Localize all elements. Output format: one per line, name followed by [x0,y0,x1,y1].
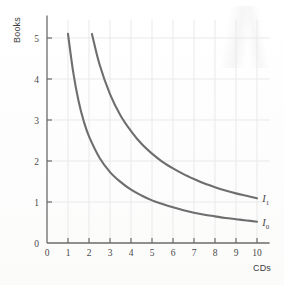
x-axis-title: CDs [253,263,271,273]
figure-canvas: 012345678910 012345 I0I1 CDs Books [0,0,284,285]
y-axis-tick-label: 1 [34,198,39,208]
curve-I1 [92,34,257,198]
x-axis-tick-label: 2 [87,248,92,258]
curve-I0 [68,34,257,222]
x-axis-tick-label: 0 [45,248,50,258]
y-axis-tick-label: 0 [34,239,39,249]
curve-label-I0: I0 [261,217,270,231]
x-axis-tick-label: 8 [213,248,218,258]
y-axis-ticks [47,38,52,202]
curve-label-I1: I1 [261,193,270,207]
y-axis-tick-labels: 012345 [34,34,39,249]
x-axis-tick-label: 6 [171,248,176,258]
y-axis-tick-label: 3 [34,116,39,126]
x-axis-ticks [68,238,257,243]
x-axis-tick-label: 10 [252,248,262,258]
y-axis-tick-label: 5 [34,34,39,44]
indifference-curve-plot: 012345678910 012345 I0I1 CDs Books [0,0,284,285]
x-axis-tick-label: 5 [150,248,155,258]
curve-label-subscript: 1 [266,199,270,207]
y-axis-tick-label: 4 [34,75,39,85]
x-axis-tick-labels: 012345678910 [45,248,262,258]
y-axis-title: Books [12,17,22,43]
curve-end-labels: I0I1 [261,193,270,230]
x-axis-tick-label: 1 [66,248,71,258]
x-axis-tick-label: 4 [129,248,134,258]
y-axis-tick-label: 2 [34,157,39,167]
curve-label-subscript: 0 [266,223,270,231]
x-axis-tick-label: 9 [234,248,239,258]
indifference-curves [68,34,257,222]
x-axis-tick-label: 7 [192,248,197,258]
x-axis-tick-label: 3 [108,248,113,258]
